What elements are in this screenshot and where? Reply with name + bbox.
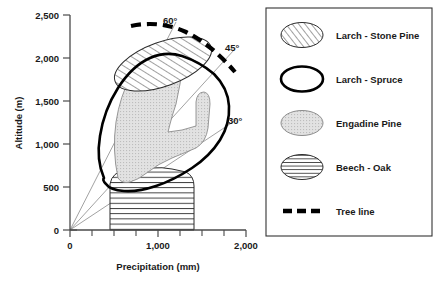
y-axis-title: Altitude (m): [13, 97, 24, 150]
x-axis-title: Precipitation (mm): [116, 261, 199, 272]
horizontal-hatch-ellipse-icon: [281, 155, 323, 180]
diagonal-hatch-ellipse-icon: [281, 23, 323, 48]
gray-filled-ellipse-icon: [281, 111, 323, 136]
angle-label-60: 60°: [163, 15, 178, 26]
legend-label: Beech - Oak: [336, 162, 392, 173]
vegetation-zones-chart: 60° 45° 30°: [0, 0, 438, 281]
x-axis-ticks: [70, 230, 246, 237]
y-tick-label: 0: [54, 225, 59, 236]
x-tick-label: 2,000: [234, 240, 258, 251]
x-tick-label: 0: [67, 240, 72, 251]
x-tick-labels: 0 1,000 2,000: [67, 240, 258, 251]
legend: Larch - Stone Pine Larch - Spruce Engadi…: [266, 8, 432, 236]
y-tick-label: 1,000: [35, 139, 59, 150]
x-tick-label: 1,000: [146, 240, 170, 251]
y-tick-label: 2,500: [35, 10, 59, 21]
figure-container: 60° 45° 30°: [0, 0, 438, 281]
y-tick-label: 2,000: [35, 53, 59, 64]
legend-label: Engadine Pine: [336, 118, 401, 129]
angle-label-30: 30°: [228, 115, 243, 126]
plot-area: 60° 45° 30°: [70, 15, 243, 230]
y-tick-label: 500: [43, 182, 59, 193]
y-tick-label: 1,500: [35, 96, 59, 107]
angle-label-45: 45°: [225, 42, 240, 53]
legend-label: Larch - Stone Pine: [336, 30, 419, 41]
thick-outline-ellipse-icon: [281, 67, 323, 92]
legend-label: Tree line: [336, 206, 375, 217]
legend-label: Larch - Spruce: [336, 74, 403, 85]
y-tick-labels: 2,500 2,000 1,500 1,000 500 0: [35, 10, 59, 236]
